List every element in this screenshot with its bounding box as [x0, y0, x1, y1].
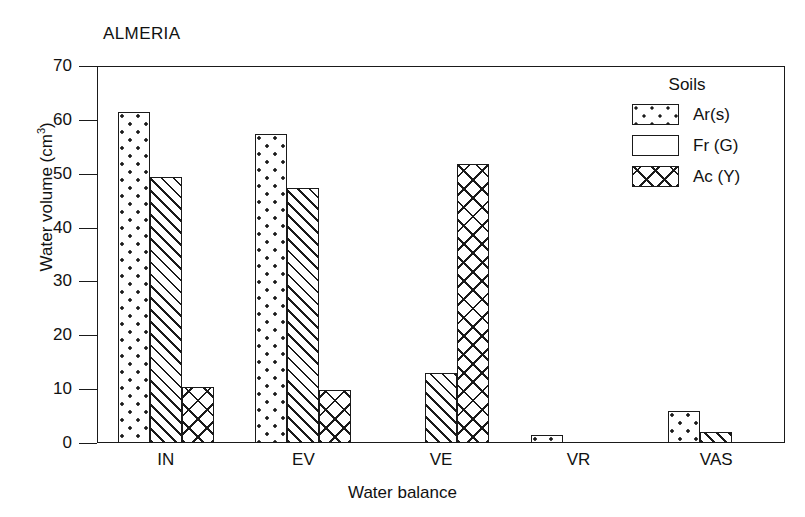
y-axis-tick-label: 40 — [22, 218, 72, 238]
legend-swatch-cross — [632, 166, 679, 187]
legend-swatch-hatch — [632, 135, 679, 156]
x-axis-category-label: VE — [430, 450, 453, 470]
bar-ev-hatch — [287, 188, 319, 443]
legend-swatch-dots — [632, 104, 679, 125]
y-axis-tick — [79, 228, 97, 229]
y-axis-tick-label: 30 — [22, 271, 72, 291]
legend-entries: Ar(s)Fr (G)Ac (Y) — [606, 104, 784, 187]
bar-in-cross — [182, 387, 214, 443]
y-axis-tick-label: 0 — [22, 433, 72, 453]
legend-label: Fr (G) — [693, 136, 738, 156]
y-axis-tick — [79, 389, 97, 390]
bar-ve-cross — [457, 164, 489, 443]
y-axis-tick — [79, 174, 97, 175]
x-axis-category-label: VAS — [700, 450, 733, 470]
y-axis-tick-label: 60 — [22, 110, 72, 130]
x-axis-category-label: EV — [292, 450, 315, 470]
y-axis-tick-label: 20 — [22, 325, 72, 345]
x-axis-category-label: VR — [567, 450, 591, 470]
chart-legend: Soils Ar(s)Fr (G)Ac (Y) — [606, 67, 784, 207]
y-axis-title-text: Water volume (cm — [37, 134, 56, 271]
bar-ev-cross — [319, 390, 351, 443]
bar-chart-figure: ALMERIA Water volume (cm3) Water balance… — [0, 0, 805, 517]
bar-ev-dots — [255, 134, 287, 443]
bar-ve-hatch — [425, 373, 457, 443]
chart-title: ALMERIA — [103, 24, 180, 44]
bar-vr-dots — [531, 435, 563, 443]
legend-title: Soils — [606, 75, 784, 95]
y-axis-tick — [79, 66, 97, 67]
x-axis-title: Water balance — [0, 483, 805, 503]
y-axis-title: Water volume (cm3) — [35, 47, 57, 347]
y-axis-tick — [79, 335, 97, 336]
legend-entry: Fr (G) — [606, 135, 784, 156]
y-axis-tick-label: 10 — [22, 379, 72, 399]
y-axis-tick-label: 50 — [22, 164, 72, 184]
y-axis-tick — [79, 120, 97, 121]
legend-entry: Ar(s) — [606, 104, 784, 125]
legend-entry: Ac (Y) — [606, 166, 784, 187]
y-axis-tick-label: 70 — [22, 56, 72, 76]
x-axis-category-label: IN — [157, 450, 174, 470]
y-axis-tick — [79, 443, 97, 444]
bar-in-dots — [118, 112, 150, 443]
bar-vas-hatch — [700, 432, 732, 443]
legend-label: Ar(s) — [693, 105, 730, 125]
y-axis-tick — [79, 281, 97, 282]
legend-label: Ac (Y) — [693, 167, 740, 187]
bar-vas-dots — [668, 411, 700, 443]
bar-in-hatch — [150, 177, 182, 443]
